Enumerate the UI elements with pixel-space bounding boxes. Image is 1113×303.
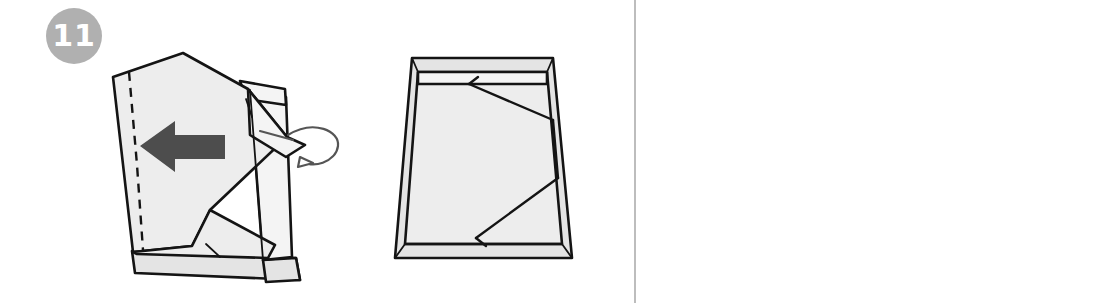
box-right-rim bbox=[263, 258, 300, 282]
figure-open-box-top bbox=[390, 50, 580, 275]
step-panel-11: 11 bbox=[0, 0, 634, 303]
tuck-arrow-head-icon bbox=[298, 157, 313, 167]
instruction-sheet: 11 bbox=[0, 0, 1113, 303]
box-inner-base bbox=[405, 72, 562, 244]
step-badge-11: 11 bbox=[46, 8, 102, 64]
step-panel-12: 12 bbox=[636, 0, 1113, 303]
figure-open-box-folding bbox=[100, 45, 350, 285]
box-inner-rim-top bbox=[418, 72, 547, 84]
